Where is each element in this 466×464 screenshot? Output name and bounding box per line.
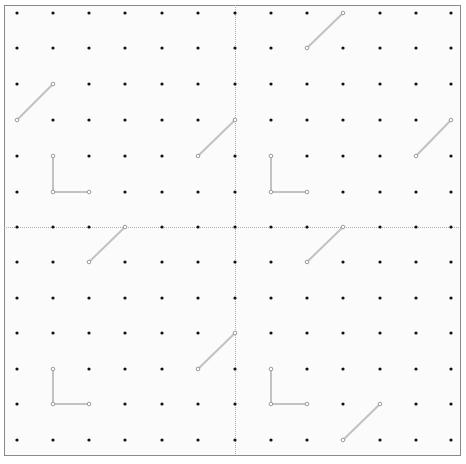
peg-dot <box>233 296 236 299</box>
peg-with-band <box>305 402 309 406</box>
peg-dot <box>305 438 308 441</box>
peg-dot <box>305 367 308 370</box>
peg-dot <box>305 225 308 228</box>
peg-dot <box>305 154 308 157</box>
peg-with-band <box>233 118 237 122</box>
peg-dot <box>305 11 308 14</box>
peg-dot <box>15 438 18 441</box>
peg-dot <box>87 46 90 49</box>
peg-dot <box>378 154 381 157</box>
peg-dot <box>15 296 18 299</box>
peg-dot <box>414 82 417 85</box>
peg-dot <box>269 118 272 121</box>
peg-dot <box>233 46 236 49</box>
peg-dot <box>160 154 163 157</box>
peg-dot <box>123 402 126 405</box>
peg-dot <box>160 438 163 441</box>
peg-dot <box>15 260 18 263</box>
peg-dot <box>123 296 126 299</box>
peg-dot <box>15 154 18 157</box>
peg-dot <box>87 296 90 299</box>
peg-dot <box>15 367 18 370</box>
peg-dot <box>196 118 199 121</box>
peg-dot <box>341 154 344 157</box>
peg-with-band <box>414 154 418 158</box>
peg-dot <box>449 367 452 370</box>
peg-with-band <box>87 260 91 264</box>
peg-dot <box>414 46 417 49</box>
peg-dot <box>233 438 236 441</box>
peg-dot <box>123 438 126 441</box>
peg-with-band <box>87 190 91 194</box>
peg-dot <box>160 260 163 263</box>
peg-dot <box>15 46 18 49</box>
peg-dot <box>233 402 236 405</box>
peg-dot <box>123 260 126 263</box>
peg-dot <box>414 225 417 228</box>
peg-dot <box>233 190 236 193</box>
peg-dot <box>449 154 452 157</box>
peg-dot <box>414 260 417 263</box>
peg-dot <box>15 225 18 228</box>
peg-dot <box>414 367 417 370</box>
peg-dot <box>414 331 417 334</box>
peg-dot <box>160 296 163 299</box>
peg-dot <box>341 46 344 49</box>
peg-dot <box>341 118 344 121</box>
peg-dot <box>269 438 272 441</box>
peg-dot <box>160 331 163 334</box>
peg-with-band <box>51 190 55 194</box>
peg-with-band <box>196 367 200 371</box>
peg-dot <box>378 296 381 299</box>
peg-dot <box>449 260 452 263</box>
peg-dot <box>449 11 452 14</box>
peg-dot <box>87 331 90 334</box>
peg-dot <box>15 11 18 14</box>
peg-dot <box>414 190 417 193</box>
peg-dot <box>15 190 18 193</box>
peg-dot <box>51 46 54 49</box>
peg-dot <box>123 367 126 370</box>
peg-dot <box>51 260 54 263</box>
peg-dot <box>196 82 199 85</box>
peg-dot <box>196 438 199 441</box>
peg-dot <box>449 190 452 193</box>
peg-with-band <box>305 260 309 264</box>
peg-with-band <box>51 367 55 371</box>
peg-dot <box>378 260 381 263</box>
peg-dot <box>51 225 54 228</box>
peg-dot <box>414 118 417 121</box>
peg-with-band <box>51 402 55 406</box>
peg-dot <box>87 154 90 157</box>
peg-dot <box>414 402 417 405</box>
peg-dot <box>87 118 90 121</box>
peg-dot <box>51 118 54 121</box>
peg-dot <box>123 190 126 193</box>
peg-dot <box>233 82 236 85</box>
peg-with-band <box>341 11 345 15</box>
peg-dot <box>305 118 308 121</box>
peg-with-band <box>123 225 127 229</box>
peg-dot <box>305 331 308 334</box>
peg-dot <box>196 190 199 193</box>
peg-dot <box>269 11 272 14</box>
peg-with-band <box>269 190 273 194</box>
peg-dot <box>87 225 90 228</box>
peg-dot <box>196 46 199 49</box>
peg-dot <box>51 11 54 14</box>
peg-with-band <box>341 438 345 442</box>
peg-dot <box>341 296 344 299</box>
peg-dot <box>123 11 126 14</box>
peg-dot <box>51 438 54 441</box>
peg-dot <box>160 11 163 14</box>
peg-dot <box>160 46 163 49</box>
peg-dot <box>414 11 417 14</box>
peg-dot <box>87 367 90 370</box>
peg-with-band <box>449 118 453 122</box>
peg-dot <box>449 46 452 49</box>
peg-with-band <box>305 46 309 50</box>
peg-dot <box>378 331 381 334</box>
board-frame <box>5 6 461 456</box>
peg-dot <box>233 154 236 157</box>
peg-dot <box>233 11 236 14</box>
